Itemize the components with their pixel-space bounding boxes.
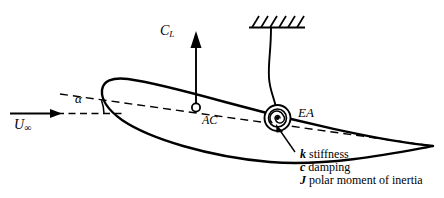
ground-support-icon — [249, 16, 305, 28]
inertia-annotation: Jpolar moment of inertia — [300, 174, 423, 186]
lift-coefficient-label: CL — [160, 24, 174, 39]
elastic-axis-label: EA — [298, 106, 314, 119]
damping-description: damping — [308, 160, 350, 174]
stiffness-annotation: kstiffness — [300, 148, 349, 160]
figure-drawing-canvas — [0, 0, 444, 198]
aerodynamic-center-marker — [192, 103, 200, 111]
inertia-description: polar moment of inertia — [309, 173, 423, 187]
angle-of-attack-label: α — [75, 92, 82, 105]
inertia-symbol: J — [300, 173, 309, 187]
aerodynamic-center-label: AC — [202, 114, 217, 126]
stiffness-symbol: k — [300, 147, 309, 161]
freestream-velocity-label: U∞ — [14, 118, 31, 133]
stiffness-description: stiffness — [309, 147, 349, 161]
aeroelastic-airfoil-figure: CL U∞ α AC EA kstiffness cdamping Jpolar… — [0, 0, 444, 198]
damping-annotation: cdamping — [300, 161, 350, 173]
